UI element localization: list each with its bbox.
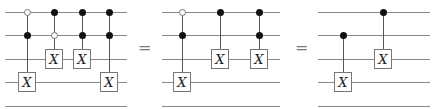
equals-sign: = xyxy=(138,38,151,57)
x-gate: X xyxy=(100,72,118,92)
equals-sign: = xyxy=(295,38,308,57)
control-dot xyxy=(380,9,387,16)
open-control-dot xyxy=(24,9,31,16)
x-gate: X xyxy=(374,49,392,69)
control-dot xyxy=(256,32,263,39)
x-gate: X xyxy=(334,72,352,92)
x-gate: X xyxy=(211,49,229,69)
control-dot xyxy=(24,32,31,39)
control-dot xyxy=(106,9,113,16)
x-gate: X xyxy=(173,72,191,92)
control-dot xyxy=(51,9,58,16)
qubit-wire-1 xyxy=(318,35,430,36)
control-dot xyxy=(340,32,347,39)
control-dot xyxy=(106,32,113,39)
x-gate: X xyxy=(73,49,91,69)
x-gate: X xyxy=(18,72,36,92)
control-dot xyxy=(217,9,224,16)
x-gate: X xyxy=(45,49,63,69)
x-gate: X xyxy=(250,49,268,69)
qubit-wire-4 xyxy=(5,106,127,107)
control-dot xyxy=(79,9,86,16)
control-dot xyxy=(179,32,186,39)
qubit-wire-4 xyxy=(318,106,430,107)
qubit-wire-4 xyxy=(162,106,280,107)
open-control-dot xyxy=(51,32,58,39)
control-dot xyxy=(256,9,263,16)
qubit-wire-0 xyxy=(318,12,430,13)
open-control-dot xyxy=(179,9,186,16)
control-dot xyxy=(79,32,86,39)
